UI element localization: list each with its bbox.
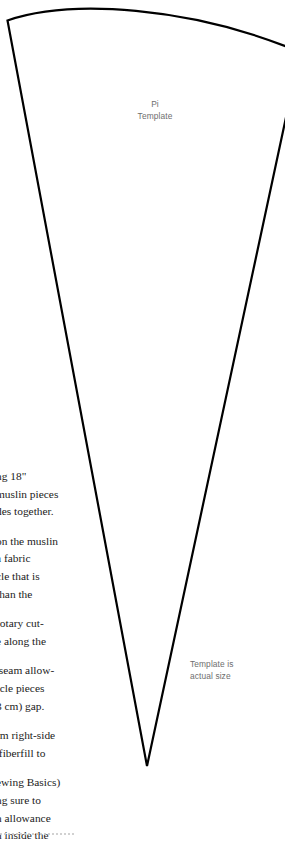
dotted-trim-rule [0,833,74,835]
instructions-line: e along the [0,633,112,651]
template-title-line-1: Pi [151,99,159,109]
instructions-line: ewing Basics) [0,774,112,792]
instructions-line: on the muslin [0,533,112,551]
instructions-paragraph: rotary cut- e along the [0,615,112,650]
instructions-line: seam allow- [0,662,112,680]
template-title-line-2: Template [138,111,173,121]
instructions-line: des together. [0,503,112,521]
instructions-paragraph: seam allow- rcle pieces 3 cm) gap. [0,662,112,715]
instructions-paragraph: on the muslin a fabric cle that is than … [0,533,112,603]
instructions-line: rotary cut- [0,615,112,633]
template-title-label: PiTemplate [105,99,205,122]
template-size-note: Template isactual size [190,659,285,682]
template-page: PiTemplate Template isactual size ng 18"… [0,0,285,842]
instructions-line: rcle pieces [0,680,112,698]
instructions-line: fiberfill to [0,745,112,763]
instructions-paragraph: ng 18" muslin pieces des together. [0,468,112,521]
instructions-line: cle that is [0,568,112,586]
instructions-text-column: ng 18" muslin pieces des together. on th… [0,468,112,842]
instructions-line: a fabric [0,550,112,568]
instructions-line: muslin pieces [0,486,112,504]
instructions-paragraph: ewing Basics) ng sure to n allowance n i… [0,774,112,842]
instructions-line: ng sure to [0,792,112,810]
instructions-line: n allowance [0,810,112,828]
instructions-line: 3 cm) gap. [0,698,112,716]
instructions-line: ng 18" [0,468,112,486]
template-size-note-line-1: Template is [190,659,233,669]
instructions-paragraph: rm right-side fiberfill to [0,727,112,762]
instructions-line: than the [0,586,112,604]
instructions-line: rm right-side [0,727,112,745]
template-size-note-line-2: actual size [190,671,231,681]
